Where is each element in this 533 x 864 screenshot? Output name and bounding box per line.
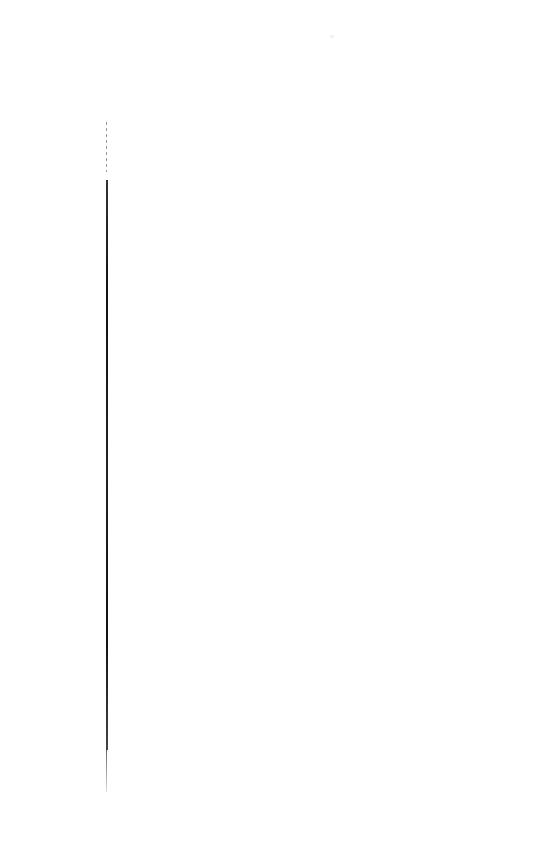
margin-line-faint-segment	[106, 122, 107, 172]
margin-line-tail	[106, 750, 107, 792]
margin-line	[106, 180, 108, 750]
scan-speck	[330, 35, 334, 38]
blank-document-page	[0, 0, 533, 864]
